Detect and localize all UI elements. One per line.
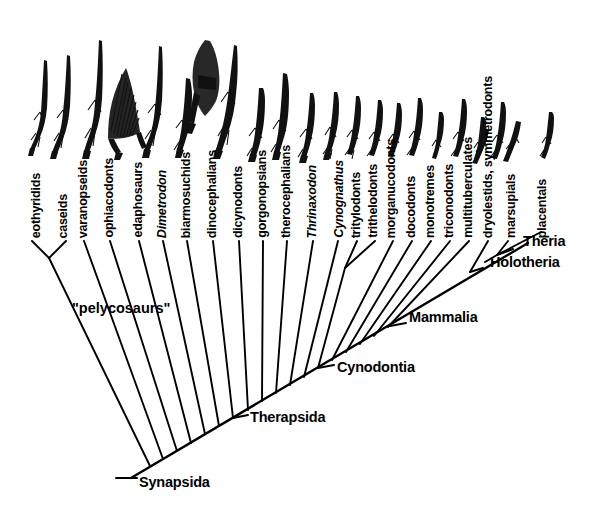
tip-label-eothyridids: eothyridids [30,173,43,238]
branch-caseids [49,241,66,258]
branch-dimetrodon [163,241,205,434]
silhouette-tritylodonts [367,100,383,156]
tip-label-varanopseids: varanopseids [77,160,90,238]
silhouette-biarmosuchids [174,78,192,158]
tip-label-ophiacodonts: ophiacodonts [103,158,116,238]
tip-label-therocephalians: therocephalians [280,145,293,238]
silhouette-docodonts [432,112,444,159]
tip-label-placentals: placentals [536,179,549,238]
branch-trithelodonts [345,241,375,268]
silhouette-eothyridids [28,60,48,156]
terminal-branches [32,232,541,466]
tip-label-monotremes: monotremes [424,165,437,238]
silhouette-ophiacodonts [108,68,147,160]
tip-label-dicynodonts: dicynodonts [232,166,245,238]
tip-label-docodonts: docodonts [405,176,418,238]
silhouette-cynognathus [345,96,361,159]
branch-eothyridid-caseid-stem [49,258,150,466]
tip-label-dinocephalians: dinocephalians [206,150,219,238]
tip-label-multituberculates: multituberculates [462,137,475,238]
tip-label-edaphosaurs: edaphosaurs [132,162,145,238]
silhouette-caseids [50,55,71,159]
silhouette-morganucodonts [407,98,423,156]
tip-label-triconodonts: triconodonts [443,164,456,238]
tip-label-thrinaxodon: Thrinaxodon [306,165,319,239]
tip-label-tritylodonts: tritylodonts [350,172,363,238]
node-label-therapsida: Therapsida [250,409,325,425]
branch-biarmosuchids [187,241,219,426]
silhouette-edaphosaurs [142,46,163,158]
clade-annotation-pelycosaurs: "pelycosaurs" [72,300,170,316]
silhouette-marsupials [503,121,521,162]
node-label-cynodontia: Cynodontia [337,359,415,375]
node-label-synapsida: Synapsida [139,474,210,490]
silhouette-therocephalians [298,93,315,163]
branch-dinocephalians [213,241,233,418]
node-label-holotheria: Holotheria [490,254,560,270]
branch-tritylodonts [345,241,357,268]
tip-label-trithelodonts: trithelodonts [367,164,380,238]
tip-label-marsupials: marsupials [505,174,518,238]
silhouette-placentals [540,112,554,159]
tip-label-biarmosuchids: biarmosuchids [180,152,193,238]
branch-thrinaxodon [290,241,313,385]
branch-varanopseids [84,241,163,459]
tip-label-cynognathus: Cynognathus [333,160,346,238]
node-label-theria: Theria [523,233,565,249]
tip-label-dimetrodon: Dimetrodon [156,170,169,238]
tip-label-dryolestids_symmetrodonts: dryolestids, symmetrodonts [482,76,495,238]
branch-eothyridids [32,241,49,258]
branch-dicynodonts [239,241,248,410]
branch-gorgonopsians [262,241,263,401]
node-label-mammalia: Mammalia [409,309,478,325]
tip-label-gorgonopsians: gorgonopsians [256,150,269,238]
silhouette-thrinaxodon [323,92,339,160]
silhouette-varanopseids [82,40,103,159]
tip-label-caseids: caseids [57,194,70,238]
branch-therocephalians [276,241,287,393]
tip-label-morganucodonts: morganucodonts [385,139,398,238]
